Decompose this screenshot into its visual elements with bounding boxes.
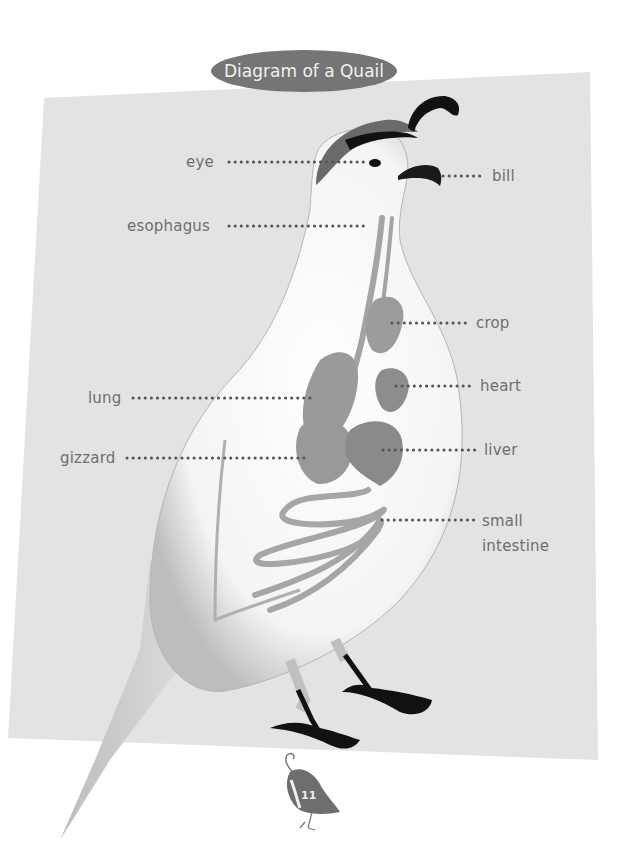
label-small-intestine-line1: small — [482, 512, 523, 530]
label-crop: crop — [476, 314, 510, 332]
label-bill: bill — [492, 167, 515, 185]
label-esophagus: esophagus — [127, 217, 210, 235]
label-lung: lung — [88, 389, 122, 407]
page-number: 11 — [301, 789, 316, 802]
diagram-title: Diagram of a Quail — [211, 50, 397, 92]
quail-illustration — [0, 0, 628, 863]
label-heart: heart — [480, 377, 521, 395]
quail-diagram-page: Diagram of a Quail eye bill esophagus cr… — [0, 0, 628, 863]
label-gizzard: gizzard — [60, 449, 115, 467]
eye-graphic — [369, 159, 381, 167]
label-small-intestine-line2: intestine — [482, 537, 549, 555]
label-eye: eye — [186, 153, 214, 171]
label-liver: liver — [484, 441, 518, 459]
